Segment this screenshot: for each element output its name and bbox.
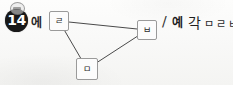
scan-smudge-artifact-icon xyxy=(10,2,25,15)
triangle-outline xyxy=(59,21,147,69)
vertex-label-left: ㄹ xyxy=(50,12,68,30)
vertex-box-bottom: ㅁ xyxy=(76,58,98,80)
answer-separator: / xyxy=(162,13,167,29)
korean-particle-text: 에 xyxy=(31,13,42,30)
vertex-box-right: ㅂ xyxy=(137,20,157,40)
vertex-label-bottom: ㅁ xyxy=(77,59,97,79)
vertex-box-left: ㄹ xyxy=(49,11,69,31)
answer-jamo-sequence: ㅁㄹㅂ xyxy=(204,15,233,31)
answer-prefix-text: 예 xyxy=(172,13,183,30)
answer-word-text: 각 xyxy=(188,12,201,32)
vertex-label-right: ㅂ xyxy=(138,21,156,39)
scanned-page: 14 에 ㄹ ㅂ ㅁ / 예 각 ㅁㄹㅂ xyxy=(0,0,233,85)
